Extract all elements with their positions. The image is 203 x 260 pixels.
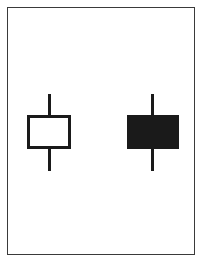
filled-candle-upper-wick [151,94,154,116]
hollow-candle-lower-wick [48,148,51,171]
filled-candle-lower-wick [151,148,154,171]
filled-candle-body [127,115,179,149]
hollow-candle-upper-wick [48,94,51,116]
hollow-candle-body [27,115,71,149]
